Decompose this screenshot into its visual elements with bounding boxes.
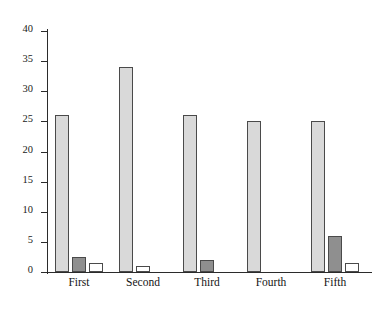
bar-groups (47, 31, 367, 272)
category-label-second: Second (126, 276, 160, 288)
bar-first-series-1 (55, 115, 69, 272)
category-label-first: First (68, 276, 89, 288)
y-tick-label: 10 (23, 204, 34, 215)
y-tick-mark (41, 272, 48, 273)
bar-first-series-3 (89, 263, 103, 272)
y-tick-label: 30 (23, 83, 34, 94)
bar-group (183, 31, 231, 272)
bar-first-series-2 (72, 257, 86, 272)
bar-group (119, 31, 167, 272)
category-label-fifth: Fifth (324, 276, 346, 288)
y-tick-label: 25 (23, 113, 34, 124)
bar-group (311, 31, 359, 272)
category-label-fourth: Fourth (256, 276, 287, 288)
bar-third-series-1 (183, 115, 197, 272)
bar-third-series-2 (200, 260, 214, 272)
y-tick-label: 0 (28, 264, 33, 275)
bar-fifth-series-1 (311, 121, 325, 272)
bar-group (55, 31, 103, 272)
bar-chart: 0510152025303540 FirstSecondThirdFourthF… (0, 0, 378, 309)
bar-second-series-3 (136, 266, 150, 272)
bar-group (247, 31, 295, 272)
y-tick-label: 5 (28, 234, 33, 245)
bar-fifth-series-3 (345, 263, 359, 272)
y-tick-label: 35 (23, 53, 34, 64)
bar-second-series-1 (119, 67, 133, 272)
y-tick-label: 20 (23, 144, 34, 155)
x-axis-category-labels: FirstSecondThirdFourthFifth (47, 276, 367, 298)
category-label-third: Third (194, 276, 220, 288)
y-tick-label: 15 (23, 174, 34, 185)
y-tick-label: 40 (23, 23, 34, 34)
bar-fifth-series-2 (328, 236, 342, 272)
bar-fourth-series-1 (247, 121, 261, 272)
x-axis-line (47, 272, 372, 273)
